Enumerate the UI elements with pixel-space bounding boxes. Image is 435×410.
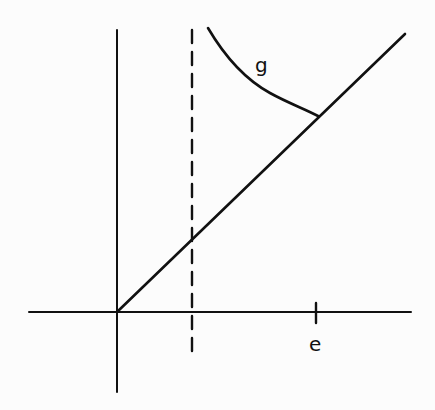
diagram-figure: g e [0, 0, 435, 410]
curve-g-label: g [255, 53, 268, 77]
tick-e-label: e [309, 332, 321, 356]
